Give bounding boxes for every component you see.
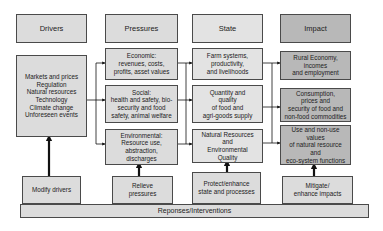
- mitigate-impacts-label: Mitigate/ enhance impacts: [294, 182, 342, 197]
- impact-natural-values: Use and non-use values of natural resour…: [280, 125, 351, 165]
- pressure-economic: Economic: revenues, costs, profits, asse…: [105, 48, 178, 80]
- pressure-environmental-label: Environmental: Resource use, abstraction…: [121, 132, 163, 163]
- drivers-list: Markets and prices Regulation Natural re…: [25, 73, 78, 119]
- state-natural-resources: Natural Resources and Environmental Qual…: [192, 129, 263, 163]
- impact-consumption-label: Consumption, prices and security of food…: [285, 90, 347, 121]
- relieve-pressures-label: Relieve pressures: [129, 182, 157, 197]
- pressure-social-label: Social: health and safety, bio- security…: [111, 89, 173, 120]
- impact-natural-values-label: Use and non-use values of natural resour…: [286, 126, 345, 164]
- drivers-header-label: Drivers: [40, 24, 64, 33]
- drivers-header: Drivers: [16, 14, 87, 43]
- impact-consumption: Consumption, prices and security of food…: [280, 88, 351, 122]
- mitigate-impacts-box: Mitigate/ enhance impacts: [282, 176, 353, 204]
- protect-state-box: Protect/enhance state and processes: [192, 172, 261, 204]
- impact-rural-economy-label: Rural Economy, incomes and employment: [292, 54, 339, 77]
- responses-interventions-bar: Reponses/Interventions: [20, 204, 369, 218]
- drivers-box: Markets and prices Regulation Natural re…: [16, 55, 87, 137]
- pressure-economic-label: Economic: revenues, costs, profits, asse…: [114, 52, 170, 75]
- pressures-header: Pressures: [105, 14, 178, 43]
- impact-header-label: Impact: [304, 24, 327, 33]
- state-farm-systems-label: Farm systems, productivity, and liveliho…: [207, 52, 249, 75]
- impact-header: Impact: [280, 14, 351, 43]
- state-food-supply-label: Quantity and quality of food and agri-go…: [203, 89, 253, 120]
- pressure-social: Social: health and safety, bio- security…: [105, 85, 178, 123]
- modify-drivers-box: Modify drivers: [22, 176, 81, 204]
- pressures-header-label: Pressures: [125, 24, 159, 33]
- state-food-supply: Quantity and quality of food and agri-go…: [192, 85, 263, 123]
- relieve-pressures-box: Relieve pressures: [112, 176, 173, 204]
- protect-state-label: Protect/enhance state and processes: [198, 180, 254, 195]
- state-farm-systems: Farm systems, productivity, and liveliho…: [192, 48, 263, 80]
- impact-rural-economy: Rural Economy, incomes and employment: [280, 51, 351, 80]
- pressure-environmental: Environmental: Resource use, abstraction…: [105, 129, 178, 165]
- state-header-label: State: [219, 24, 237, 33]
- state-header: State: [192, 14, 263, 43]
- state-natural-resources-label: Natural Resources and Environmental Qual…: [201, 131, 253, 162]
- modify-drivers-label: Modify drivers: [32, 186, 71, 194]
- responses-bar-label: Reponses/Interventions: [158, 207, 232, 216]
